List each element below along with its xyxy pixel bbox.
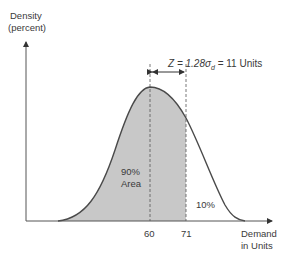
x-axis-label-unit: in Units	[241, 240, 273, 251]
area-label-text: Area	[121, 178, 141, 189]
tail-label: 10%	[196, 199, 215, 210]
tick-label-71: 71	[181, 228, 192, 239]
normal-distribution-diagram	[0, 0, 290, 255]
z-annotation: Z = 1.28σd = 11 Units	[168, 58, 262, 73]
y-axis-label-unit: (percent)	[8, 22, 46, 33]
y-axis-label: Density	[10, 10, 42, 21]
shaded-area-90	[58, 87, 186, 221]
area-label-percent: 90%	[121, 166, 140, 177]
x-axis-label: Demand	[241, 228, 277, 239]
tick-label-60: 60	[144, 228, 155, 239]
